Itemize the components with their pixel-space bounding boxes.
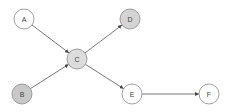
node-e: E: [122, 84, 142, 104]
edges: [30, 25, 199, 94]
edge-a-c: [32, 25, 69, 53]
node-label: D: [127, 16, 132, 23]
graph-diagram: ABCDEF: [0, 0, 228, 112]
edge-b-c: [30, 64, 68, 88]
edge-c-e: [85, 64, 123, 88]
node-label: B: [20, 91, 25, 98]
node-label: C: [74, 56, 79, 63]
node-c: C: [67, 49, 87, 69]
node-label: E: [130, 91, 135, 98]
node-f: F: [199, 84, 219, 104]
edge-c-d: [85, 25, 122, 53]
node-label: F: [207, 91, 211, 98]
nodes: ABCDEF: [12, 9, 219, 104]
node-a: A: [14, 9, 34, 29]
node-d: D: [120, 9, 140, 29]
node-label: A: [22, 16, 27, 23]
node-b: B: [12, 84, 32, 104]
